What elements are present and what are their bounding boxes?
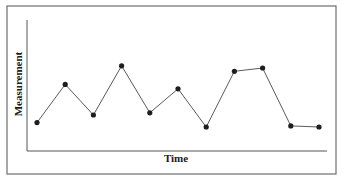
data-point [288,123,293,128]
data-point [316,124,321,129]
data-point [63,82,68,87]
data-markers [34,63,321,129]
data-point [260,65,265,70]
data-point [91,112,96,117]
data-point [232,69,237,74]
series-line [37,66,319,127]
data-point [175,86,180,91]
data-point [204,124,209,129]
line-chart: Time Measurement [0,0,342,181]
x-axis-label: Time [164,152,188,164]
data-point [119,63,124,68]
data-point [147,110,152,115]
chart-frame [7,6,336,174]
data-point [34,120,39,125]
y-axis-label: Measurement [12,51,24,116]
